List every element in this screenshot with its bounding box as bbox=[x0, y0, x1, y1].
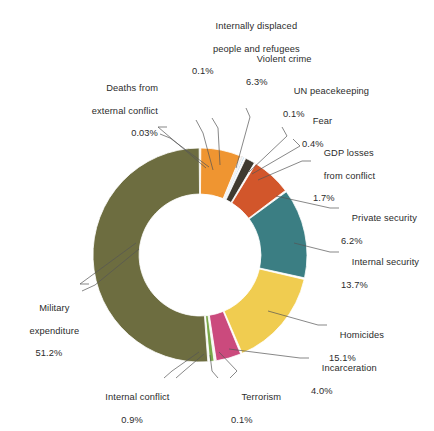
label-incarceration: Incarceration 4.0% bbox=[311, 352, 397, 419]
label-deaths-external-conflict: Deaths from external conflict 0.03% bbox=[50, 72, 158, 162]
label-percent: 0.03% bbox=[50, 128, 158, 139]
label-text: Incarceration bbox=[322, 363, 377, 373]
label-text: UN peacekeeping bbox=[294, 86, 369, 96]
label-military-expenditure: Military expenditure 51.2% bbox=[8, 292, 90, 382]
label-internal-conflict: Internal conflict 0.9% bbox=[86, 381, 178, 431]
label-text: Terrorism bbox=[242, 392, 282, 402]
label-percent: 0.9% bbox=[86, 415, 178, 426]
label-text: GDP losses bbox=[324, 148, 374, 158]
label-text: Deaths from bbox=[106, 83, 158, 93]
chart-canvas: Internally displaced people and refugees… bbox=[0, 0, 434, 431]
donut-slices bbox=[93, 148, 307, 362]
label-text: Internally displaced bbox=[216, 21, 298, 31]
label-text: Violent crime bbox=[257, 54, 312, 64]
label-text: Homicides bbox=[340, 330, 384, 340]
label-text: Internal security bbox=[352, 257, 419, 267]
label-internal-security: Internal security 13.7% bbox=[341, 246, 433, 313]
label-percent: 0.1% bbox=[231, 415, 303, 426]
label-percent: 13.7% bbox=[341, 280, 433, 291]
donut-slice[interactable] bbox=[93, 148, 208, 362]
label-text: Fear bbox=[313, 116, 333, 126]
label-text: Internal conflict bbox=[105, 392, 169, 402]
label-text: expenditure bbox=[30, 326, 80, 336]
donut-slice[interactable] bbox=[224, 269, 304, 353]
label-text: from conflict bbox=[324, 171, 375, 181]
label-terrorism: Terrorism 0.1% bbox=[231, 381, 303, 431]
label-percent: 51.2% bbox=[8, 348, 90, 359]
label-text: external conflict bbox=[92, 106, 158, 116]
label-text: Military bbox=[39, 303, 69, 313]
label-percent: 4.0% bbox=[311, 386, 397, 397]
label-text: Private security bbox=[352, 213, 417, 223]
